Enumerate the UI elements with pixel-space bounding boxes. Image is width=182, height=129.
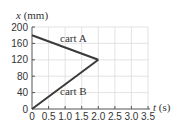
- position-time-chart: 200 160 120 80 40 0 0 0.5 1.0 1.5 2.0 2.…: [0, 0, 182, 129]
- x-tick: 0.5: [42, 111, 56, 122]
- x-tick: 0: [29, 111, 35, 122]
- x-tick: 1.5: [75, 111, 89, 122]
- x-tick: 1.0: [58, 111, 72, 122]
- x-tick: 3.0: [124, 111, 138, 122]
- y-tick: 160: [11, 38, 28, 49]
- y-tick: 40: [17, 87, 29, 98]
- y-axis-label: x (mm): [15, 9, 48, 22]
- y-tick-labels: 200 160 120 80 40 0: [11, 22, 28, 115]
- cart-b-label: cart B: [60, 85, 87, 97]
- x-axis-label: t (s): [153, 101, 171, 114]
- x-tick: 2.5: [108, 111, 122, 122]
- y-tick: 0: [22, 104, 28, 115]
- y-tick: 80: [17, 71, 29, 82]
- y-tick: 200: [11, 22, 28, 33]
- cart-a-label: cart A: [60, 32, 87, 44]
- x-tick-labels: 0 0.5 1.0 1.5 2.0 2.5 3.0 3.5: [29, 111, 155, 122]
- y-tick: 120: [11, 54, 28, 65]
- x-tick: 2.0: [91, 111, 105, 122]
